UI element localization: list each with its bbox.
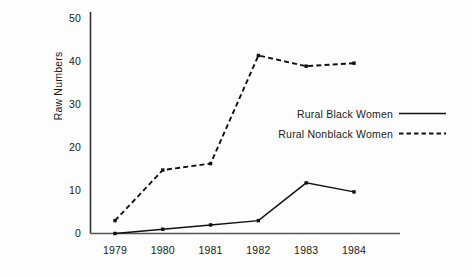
data-point-marker	[352, 61, 355, 64]
data-point-marker	[257, 54, 260, 57]
data-point-marker	[161, 228, 164, 231]
series-group	[113, 54, 355, 235]
data-point-marker	[209, 223, 212, 226]
data-point-marker	[257, 219, 260, 222]
data-point-marker	[161, 168, 164, 171]
data-point-marker	[352, 190, 355, 193]
data-point-marker	[113, 219, 116, 222]
axes-group	[91, 12, 401, 234]
data-point-marker	[209, 162, 212, 165]
legend-label-rural-nonblack-women: Rural Nonblack Women	[230, 128, 393, 140]
line-chart: Raw Numbers 0102030405019791980198119821…	[0, 0, 471, 276]
series-line-0	[115, 183, 354, 234]
legend-label-rural-black-women: Rural Black Women	[250, 108, 393, 120]
data-point-marker	[305, 64, 308, 67]
legend-swatch-group	[399, 114, 446, 134]
data-point-marker	[113, 232, 116, 235]
data-point-marker	[305, 181, 308, 184]
